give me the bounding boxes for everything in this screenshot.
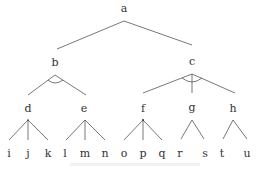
- node-t: t: [220, 148, 224, 159]
- node-u: u: [243, 148, 250, 159]
- node-dot-d: [27, 119, 29, 121]
- tree-diagram: [0, 0, 258, 171]
- edge-e-l: [66, 120, 85, 140]
- node-i: i: [7, 148, 11, 159]
- node-k: k: [45, 148, 52, 159]
- node-dot-f: [142, 119, 144, 121]
- figure-caption: [70, 163, 200, 166]
- edge-g-s: [192, 120, 204, 139]
- node-f: f: [141, 103, 145, 114]
- edge-f-q: [143, 120, 162, 140]
- edge-a-c: [124, 21, 192, 45]
- node-n: n: [101, 148, 108, 159]
- edge-e-n: [85, 120, 105, 140]
- node-o: o: [121, 148, 128, 159]
- edge-g-r: [181, 120, 192, 139]
- edge-a-b: [57, 21, 124, 49]
- edge-c-h: [192, 74, 235, 93]
- node-h: h: [229, 103, 236, 114]
- node-p: p: [139, 148, 146, 159]
- node-e: e: [81, 103, 88, 114]
- edge-h-u: [233, 120, 247, 139]
- node-g: g: [188, 102, 195, 113]
- edge-d-k: [28, 120, 48, 140]
- node-j: j: [26, 148, 29, 159]
- node-b: b: [51, 57, 58, 68]
- node-l: l: [63, 148, 67, 159]
- edge-b-d: [28, 75, 55, 95]
- edge-f-o: [124, 120, 143, 140]
- node-a: a: [121, 3, 128, 14]
- edge-h-t: [223, 120, 233, 139]
- node-m: m: [80, 148, 90, 159]
- edge-d-i: [9, 120, 28, 140]
- node-s: s: [202, 148, 208, 159]
- node-c: c: [189, 56, 195, 67]
- edge-c-f: [143, 74, 192, 93]
- node-r: r: [177, 148, 182, 159]
- edge-b-e: [55, 75, 86, 95]
- node-q: q: [158, 148, 165, 159]
- node-d: d: [24, 103, 31, 114]
- and-arc-b: [48, 80, 63, 83]
